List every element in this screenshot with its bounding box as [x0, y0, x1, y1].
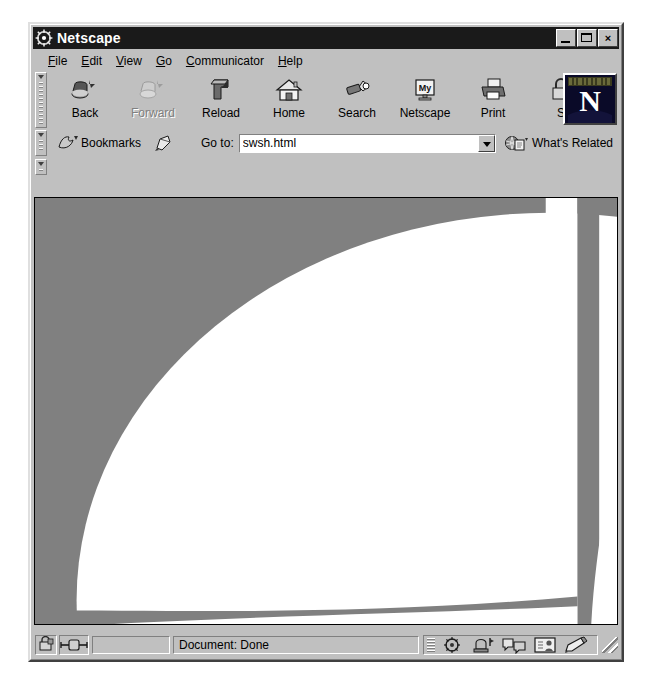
- network-connection-icon[interactable]: [59, 635, 89, 655]
- menu-item-view[interactable]: View: [109, 53, 149, 69]
- menu-item-edit[interactable]: Edit: [74, 53, 109, 69]
- status-message: Document: Done: [173, 636, 419, 654]
- progress-bar: [92, 636, 170, 654]
- resize-grip-icon[interactable]: [602, 637, 618, 653]
- home-icon: [269, 75, 309, 105]
- content-viewport[interactable]: [34, 197, 618, 625]
- globe-page-icon[interactable]: [503, 133, 529, 153]
- reload-icon: [201, 75, 241, 105]
- page-canvas: [35, 198, 617, 624]
- personal-toolbar-grip[interactable]: [35, 159, 47, 175]
- forward-button-label: Forward: [131, 106, 175, 120]
- url-dropdown-button[interactable]: [478, 135, 495, 152]
- component-bar: [423, 635, 598, 655]
- my-netscape-icon: My: [405, 75, 445, 105]
- bookmark-flag-icon[interactable]: [55, 133, 81, 153]
- close-button[interactable]: ×: [598, 29, 618, 47]
- back-button[interactable]: Back: [51, 72, 119, 126]
- close-icon: ×: [599, 30, 617, 46]
- url-field-wrapper: [239, 134, 496, 153]
- menu-accel-view: V: [116, 54, 124, 68]
- page-proxy-icon[interactable]: [151, 133, 177, 153]
- back-arrow-icon: [65, 75, 105, 105]
- menu-item-help[interactable]: Help: [271, 53, 310, 69]
- navigation-toolbar-grip[interactable]: [35, 72, 47, 128]
- navigation-toolbar: Back Forward: [49, 72, 619, 128]
- collapse-arrow-icon: [38, 75, 44, 79]
- status-bar: Document: Done: [33, 633, 619, 657]
- grip-texture: [39, 169, 43, 171]
- address-book-icon[interactable]: [532, 636, 560, 654]
- goto-label: Go to:: [201, 136, 234, 150]
- menu-item-go[interactable]: Go: [149, 53, 179, 69]
- menu-item-file[interactable]: File: [41, 53, 74, 69]
- mailbox-icon[interactable]: [470, 636, 498, 654]
- collapse-arrow-icon: [38, 133, 44, 137]
- composer-icon[interactable]: [563, 636, 591, 654]
- netscape-ship-wheel-icon: [35, 29, 53, 47]
- navigation-buttons: Back Forward: [51, 72, 595, 128]
- swsh-page-graphic: [35, 198, 617, 624]
- discussions-icon[interactable]: [501, 636, 529, 654]
- reload-button[interactable]: Reload: [187, 72, 255, 126]
- grip-texture: [39, 140, 43, 152]
- grip-texture: [39, 82, 43, 124]
- menu-rest-view: iew: [124, 54, 142, 68]
- menu-rest-file: ile: [55, 54, 67, 68]
- bookmarks-label[interactable]: Bookmarks: [81, 136, 141, 150]
- security-padlock-icon[interactable]: [35, 635, 57, 655]
- back-button-label: Back: [72, 106, 99, 120]
- svg-text:My: My: [419, 83, 432, 93]
- print-button-label: Print: [481, 106, 506, 120]
- menu-accel-communicator: C: [186, 54, 195, 68]
- menu-rest-edit: dit: [89, 54, 102, 68]
- grey-vertical-band: [577, 198, 599, 624]
- menu-rest-communicator: ommunicator: [195, 54, 264, 68]
- menu-rest-go: o: [165, 54, 172, 68]
- menu-accel-go: G: [156, 54, 165, 68]
- netscape-n-logo[interactable]: N: [563, 73, 617, 125]
- whats-related-label[interactable]: What's Related: [532, 136, 613, 150]
- collapse-arrow-icon: [38, 162, 44, 166]
- component-bar-grip[interactable]: [427, 638, 435, 653]
- netscape-button[interactable]: My Netscape: [391, 72, 459, 126]
- home-button[interactable]: Home: [255, 72, 323, 126]
- home-button-label: Home: [273, 106, 305, 120]
- browser-window: Netscape × File Edit View Go Communicato…: [28, 22, 624, 662]
- search-button[interactable]: Search: [323, 72, 391, 126]
- location-toolbar-grip[interactable]: [35, 130, 47, 156]
- minimize-icon: [557, 30, 575, 46]
- url-input[interactable]: [240, 135, 478, 152]
- personal-toolbar: [49, 159, 619, 171]
- minimize-button[interactable]: [556, 29, 576, 47]
- reload-button-label: Reload: [202, 106, 240, 120]
- location-toolbar: Bookmarks Go to:: [49, 130, 619, 156]
- toolbar-area: Back Forward: [33, 71, 619, 195]
- menu-item-communicator[interactable]: Communicator: [179, 53, 271, 69]
- search-button-label: Search: [338, 106, 376, 120]
- maximize-icon: [578, 30, 596, 46]
- menu-accel-help: H: [278, 54, 287, 68]
- print-button[interactable]: Print: [459, 72, 527, 126]
- forward-button[interactable]: Forward: [119, 72, 187, 126]
- window-inner-bevel: Netscape × File Edit View Go Communicato…: [30, 24, 622, 660]
- maximize-button[interactable]: [577, 29, 597, 47]
- menu-rest-help: elp: [287, 54, 303, 68]
- forward-arrow-icon: [133, 75, 173, 105]
- navigator-icon[interactable]: [439, 636, 467, 654]
- title-bar[interactable]: Netscape ×: [33, 27, 619, 49]
- netscape-button-label: Netscape: [400, 106, 451, 120]
- search-flashlight-icon: [337, 75, 377, 105]
- window-title: Netscape: [57, 30, 121, 46]
- menu-bar: File Edit View Go Communicator Help: [33, 51, 619, 71]
- printer-icon: [473, 75, 513, 105]
- svg-text:N: N: [579, 84, 601, 117]
- white-right-extension: [546, 198, 578, 624]
- desktop-background: Netscape × File Edit View Go Communicato…: [0, 0, 650, 681]
